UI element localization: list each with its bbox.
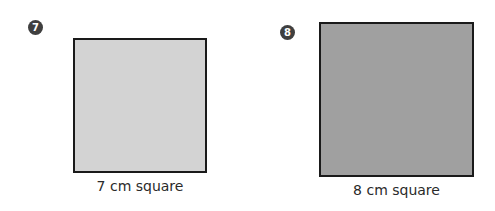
square-shape	[319, 22, 474, 177]
square-shape	[73, 38, 207, 173]
problem-number-badge: 8	[280, 25, 295, 40]
square-label: 8 cm square	[319, 182, 474, 198]
square-label: 7 cm square	[73, 178, 207, 194]
problem-number-badge: 7	[28, 20, 43, 35]
